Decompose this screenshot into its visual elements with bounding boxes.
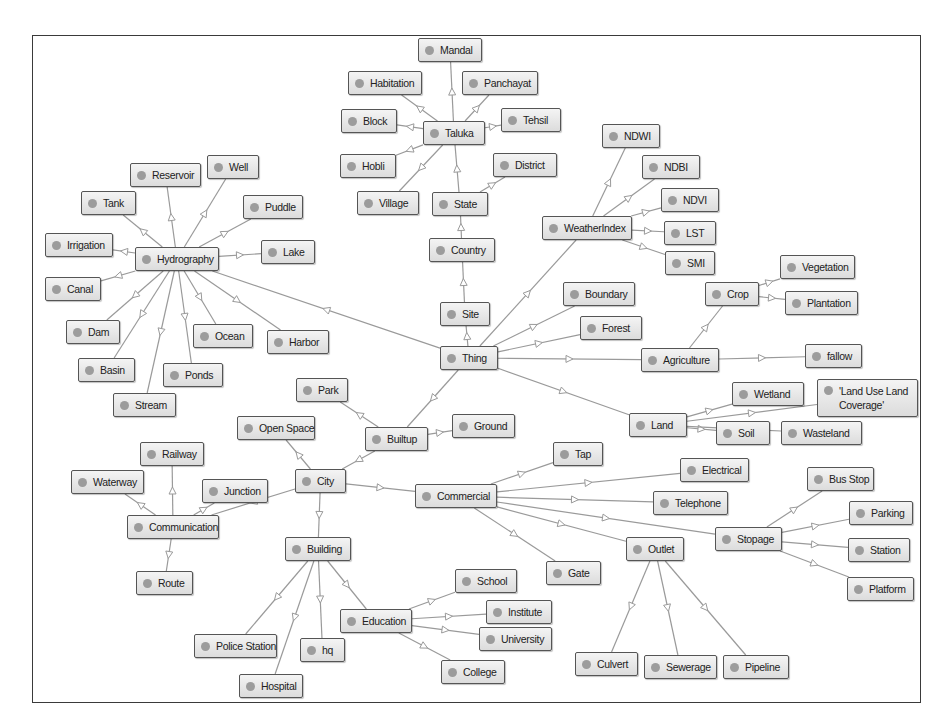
node-ground[interactable]: Ground — [452, 414, 515, 438]
node-openspace[interactable]: Open Space — [237, 416, 315, 440]
node-station[interactable]: Station — [848, 538, 910, 562]
node-telephone[interactable]: Telephone — [653, 491, 728, 515]
class-dot-icon — [73, 328, 82, 337]
node-label: hq — [322, 644, 333, 656]
node-village[interactable]: Village — [357, 191, 419, 215]
node-puddle[interactable]: Puddle — [243, 195, 303, 219]
node-parking[interactable]: Parking — [849, 501, 913, 525]
node-landuse[interactable]: 'Land Use Land Coverage' — [817, 379, 918, 417]
node-electrical[interactable]: Electrical — [680, 458, 749, 482]
node-well[interactable]: Well — [207, 155, 259, 179]
class-dot-icon — [201, 642, 210, 651]
node-lst[interactable]: LST — [664, 221, 716, 245]
node-label: Block — [363, 115, 387, 127]
node-agriculture[interactable]: Agriculture — [641, 348, 719, 372]
node-wetland[interactable]: Wetland — [732, 382, 804, 406]
node-lake[interactable]: Lake — [261, 240, 315, 264]
node-building[interactable]: Building — [285, 537, 351, 561]
node-hydrography[interactable]: Hydrography — [135, 247, 219, 271]
node-pipeline[interactable]: Pipeline — [723, 655, 789, 679]
class-dot-icon — [268, 248, 277, 257]
node-university[interactable]: University — [479, 627, 552, 651]
class-dot-icon — [854, 585, 863, 594]
node-panchayat[interactable]: Panchayat — [462, 71, 538, 95]
node-site[interactable]: Site — [440, 302, 490, 326]
node-commercial[interactable]: Commercial — [415, 484, 497, 508]
class-dot-icon — [250, 203, 259, 212]
class-dot-icon — [493, 608, 502, 617]
node-waterway[interactable]: Waterway — [71, 470, 144, 494]
node-railway[interactable]: Railway — [140, 442, 204, 466]
node-hq[interactable]: hq — [300, 638, 345, 662]
node-tehsil[interactable]: Tehsil — [501, 108, 561, 132]
node-ponds[interactable]: Ponds — [163, 363, 223, 387]
node-land[interactable]: Land — [629, 413, 687, 437]
node-label: Basin — [100, 364, 125, 376]
node-ndvi[interactable]: NDVI — [661, 188, 719, 212]
node-junction[interactable]: Junction — [202, 479, 268, 503]
node-label: Building — [307, 543, 342, 555]
node-stream[interactable]: Stream — [113, 393, 176, 417]
class-dot-icon — [739, 390, 748, 399]
node-busstop[interactable]: Bus Stop — [807, 467, 874, 491]
node-soil[interactable]: Soil — [716, 421, 770, 445]
node-stopage[interactable]: Stopage — [715, 527, 782, 551]
node-irrigation[interactable]: Irrigation — [45, 233, 113, 257]
node-platform[interactable]: Platform — [847, 577, 914, 601]
node-tap[interactable]: Tap — [553, 442, 603, 466]
node-education[interactable]: Education — [340, 609, 412, 633]
node-block[interactable]: Block — [341, 109, 397, 133]
node-dam[interactable]: Dam — [66, 320, 120, 344]
node-label: Builtup — [387, 433, 417, 445]
class-dot-icon — [856, 509, 865, 518]
node-crop[interactable]: Crop — [705, 282, 759, 306]
node-plantation[interactable]: Plantation — [785, 291, 858, 315]
node-thing[interactable]: Thing — [440, 346, 498, 370]
node-vegetation[interactable]: Vegetation — [780, 255, 855, 279]
node-tank[interactable]: Tank — [81, 191, 136, 215]
node-habitation[interactable]: Habitation — [348, 71, 422, 95]
node-ndbi[interactable]: NDBI — [642, 155, 700, 179]
node-ocean[interactable]: Ocean — [193, 324, 253, 348]
node-school[interactable]: School — [455, 569, 517, 593]
node-country[interactable]: Country — [429, 238, 495, 262]
class-dot-icon — [723, 429, 732, 438]
node-park[interactable]: Park — [296, 378, 348, 402]
node-boundary[interactable]: Boundary — [563, 282, 635, 306]
class-dot-icon — [792, 299, 801, 308]
node-harbor[interactable]: Harbor — [267, 330, 329, 354]
node-district[interactable]: District — [493, 153, 557, 177]
class-dot-icon — [855, 546, 864, 555]
node-canal[interactable]: Canal — [45, 277, 101, 301]
node-sewerage[interactable]: Sewerage — [644, 655, 717, 679]
node-ndwi[interactable]: NDWI — [602, 124, 660, 148]
node-forest[interactable]: Forest — [580, 316, 642, 340]
node-builtup[interactable]: Builtup — [365, 427, 428, 451]
node-route[interactable]: Route — [136, 571, 193, 595]
node-hospital[interactable]: Hospital — [239, 674, 303, 698]
node-mandal[interactable]: Mandal — [418, 38, 482, 62]
node-wasteland[interactable]: Wasteland — [781, 421, 862, 445]
node-gate[interactable]: Gate — [546, 561, 601, 585]
node-label: Parking — [871, 507, 905, 519]
node-communication[interactable]: Communication — [127, 515, 219, 539]
node-outlet[interactable]: Outlet — [626, 537, 684, 561]
class-dot-icon — [648, 356, 657, 365]
class-dot-icon — [355, 79, 364, 88]
node-label: Platform — [869, 583, 906, 595]
node-weatherindex[interactable]: WeatherIndex — [542, 216, 632, 240]
node-hobli[interactable]: Hobli — [340, 154, 396, 178]
node-taluka[interactable]: Taluka — [423, 121, 485, 145]
node-basin[interactable]: Basin — [78, 358, 135, 382]
node-policestation[interactable]: Police Station — [194, 634, 277, 658]
node-city[interactable]: City — [295, 469, 346, 493]
node-college[interactable]: College — [441, 660, 505, 684]
node-fallow[interactable]: fallow — [805, 344, 862, 368]
node-state[interactable]: State — [432, 192, 488, 216]
node-smi[interactable]: SMI — [665, 251, 715, 275]
node-label: Stopage — [737, 533, 774, 545]
node-label: Taluka — [445, 127, 474, 139]
node-reservoir[interactable]: Reservoir — [130, 163, 201, 187]
node-culvert[interactable]: Culvert — [575, 652, 638, 676]
node-institute[interactable]: Institute — [486, 600, 552, 624]
